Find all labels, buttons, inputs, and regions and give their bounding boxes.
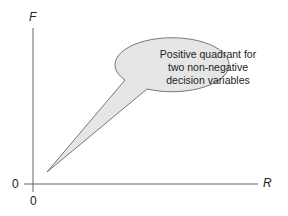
callout-text: Positive quadrant for two non-negative d… [151, 48, 265, 87]
x-axis-label: R [263, 176, 272, 190]
x-origin-label: 0 [30, 194, 37, 208]
callout-line: two non-negative [151, 61, 265, 74]
y-origin-label: 0 [12, 177, 19, 191]
y-axis-label: F [29, 10, 36, 24]
diagram-canvas: F R 0 0 Positive quadrant for two non-ne… [0, 0, 288, 216]
diagram-graphics [0, 0, 288, 216]
callout-line: Positive quadrant for [151, 48, 265, 61]
callout-line: decision variables [151, 74, 265, 87]
